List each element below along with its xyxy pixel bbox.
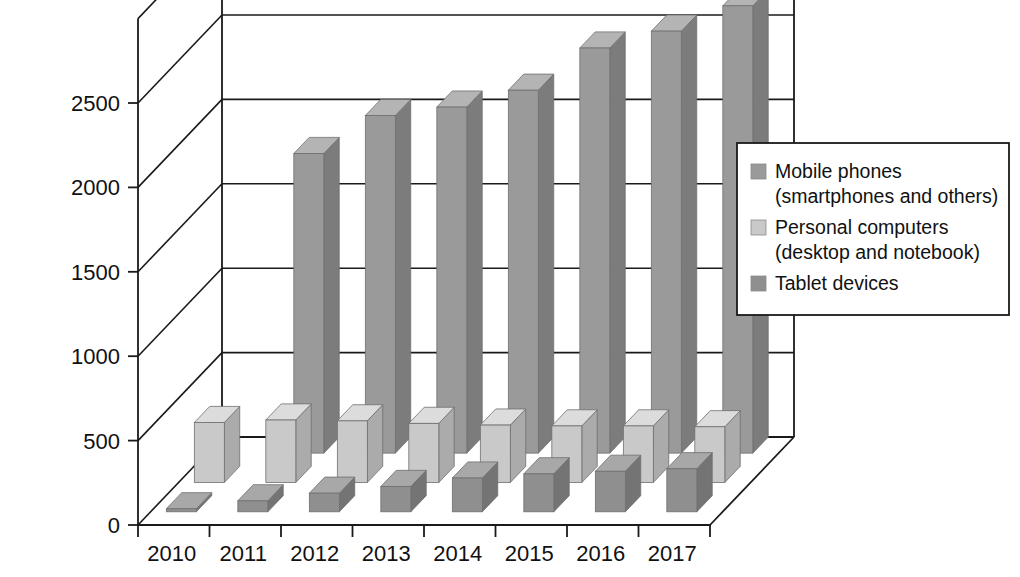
grid-line-depth (138, 268, 222, 356)
x-category-label: 2013 (362, 541, 411, 566)
x-category-label: 2016 (576, 541, 625, 566)
bar (580, 32, 625, 453)
bar (194, 406, 239, 482)
bar (452, 462, 497, 512)
legend-label-secondary: (smartphones and others) (775, 185, 998, 207)
bar (667, 453, 712, 512)
bar (437, 91, 482, 453)
bar (524, 458, 569, 512)
y-tick-label: 500 (83, 429, 120, 454)
grid-line-depth (138, 184, 222, 272)
x-category-label: 2017 (648, 541, 697, 566)
bar (238, 485, 283, 512)
bar (365, 99, 410, 453)
x-category-label: 2010 (147, 541, 196, 566)
y-tick-label: 1000 (71, 344, 120, 369)
bar (595, 455, 640, 512)
legend-label: Mobile phones (775, 160, 902, 182)
bar (651, 15, 696, 453)
legend-swatch (751, 276, 766, 291)
bars-layer (166, 0, 768, 512)
grid-line-depth (138, 99, 222, 187)
y-tick-label: 0 (108, 513, 120, 538)
y-tick-label: 2000 (71, 175, 120, 200)
legend-label: Personal computers (775, 216, 949, 238)
y-axis-tick-labels: 05001000150020002500 (71, 91, 138, 538)
bar (166, 493, 211, 512)
legend-swatch (751, 220, 766, 235)
y-tick-label: 1500 (71, 260, 120, 285)
bar (508, 74, 553, 453)
bar (337, 405, 382, 483)
x-category-label: 2011 (220, 541, 267, 566)
y-tick-label: 2500 (71, 91, 120, 116)
x-axis-category-labels: 20102011201220132014201520162017 (138, 525, 710, 566)
legend-label-secondary: (desktop and notebook) (775, 241, 980, 263)
bar-chart-3d: 05001000150020002500 2010201120122013201… (0, 0, 1020, 577)
chart-container: 05001000150020002500 2010201120122013201… (0, 0, 1020, 577)
bar (381, 470, 426, 511)
bar-series (294, 0, 768, 453)
legend-label: Tablet devices (775, 272, 899, 294)
x-category-label: 2012 (290, 541, 339, 566)
legend: Mobile phones(smartphones and others)Per… (737, 143, 1009, 315)
x-category-label: 2014 (433, 541, 482, 566)
grid-line-depth (138, 15, 222, 103)
bar (266, 404, 311, 483)
x-category-label: 2015 (505, 541, 554, 566)
legend-swatch (751, 164, 766, 179)
bar (309, 477, 354, 512)
